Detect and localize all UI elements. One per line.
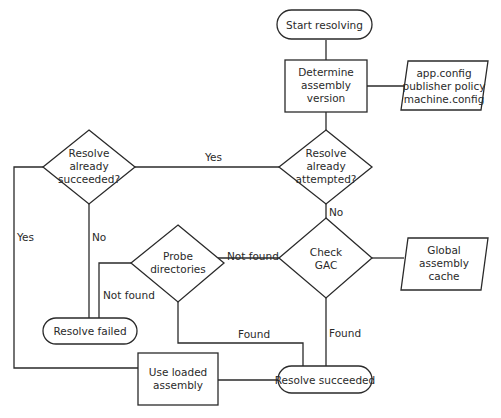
svg-text:already: already: [306, 160, 345, 172]
svg-text:Probe: Probe: [163, 250, 193, 262]
svg-text:assembly: assembly: [419, 257, 469, 269]
svg-text:Resolve: Resolve: [306, 147, 347, 159]
svg-text:cache: cache: [428, 270, 459, 282]
label-gac-found: Found: [329, 327, 361, 339]
node-use-loaded: Use loaded assembly: [138, 353, 218, 405]
svg-text:Check: Check: [310, 246, 343, 258]
node-attempted: Resolve already attempted?: [279, 130, 372, 204]
node-check-gac: Check GAC: [279, 218, 372, 298]
node-start: Start resolving: [277, 10, 372, 39]
svg-text:version: version: [307, 92, 345, 104]
node-resolved: Resolve succeeded: [275, 366, 376, 393]
svg-text:succeeded?: succeeded?: [58, 173, 120, 185]
label-attempted-yes: Yes: [204, 151, 222, 163]
svg-text:GAC: GAC: [315, 259, 337, 271]
svg-text:publisher policy: publisher policy: [403, 80, 486, 92]
label-probe-not-found: Not found: [227, 250, 279, 262]
label-probe-found: Found: [238, 328, 270, 340]
svg-text:assembly: assembly: [153, 379, 203, 391]
svg-text:Resolve failed: Resolve failed: [53, 325, 126, 337]
node-determine: Determine assembly version: [285, 60, 367, 112]
svg-text:Determine: Determine: [298, 66, 354, 78]
svg-text:assembly: assembly: [301, 79, 351, 91]
label-succeeded-yes: Yes: [16, 231, 34, 243]
svg-text:app.config: app.config: [416, 67, 471, 79]
label-attempted-no: No: [329, 206, 343, 218]
svg-text:Resolve: Resolve: [69, 147, 110, 159]
node-succeeded-question: Resolve already succeeded?: [43, 130, 135, 204]
svg-text:Start resolving: Start resolving: [286, 19, 363, 31]
svg-text:machine.config: machine.config: [404, 93, 485, 105]
svg-text:Use loaded: Use loaded: [149, 366, 208, 378]
label-succeeded-no: No: [92, 231, 106, 243]
svg-text:Resolve succeeded: Resolve succeeded: [275, 374, 376, 386]
node-failed: Resolve failed: [43, 318, 137, 344]
svg-text:directories: directories: [150, 263, 206, 275]
flowchart: Start resolving Determine assembly versi…: [0, 0, 501, 418]
label-gac-not-found: Not found: [103, 289, 155, 301]
node-config: app.config publisher policy machine.conf…: [401, 61, 488, 110]
svg-text:already: already: [69, 160, 108, 172]
svg-text:attempted?: attempted?: [296, 173, 357, 185]
node-gac-store: Global assembly cache: [401, 238, 488, 290]
svg-text:Global: Global: [427, 244, 461, 256]
